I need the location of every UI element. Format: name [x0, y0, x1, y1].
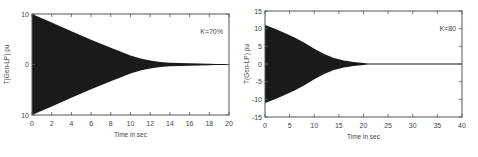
y-tick-label: -15 [252, 114, 262, 121]
x-tick-label: 6 [89, 120, 93, 127]
x-tick-label: 35 [433, 122, 441, 129]
x-tick-label: 18 [205, 120, 213, 127]
x-tick-label: 40 [458, 122, 466, 129]
x-axis-label: Time in sec [114, 131, 148, 138]
y-axis-label: T(Gen-LP) pu [243, 44, 251, 84]
chart-left-plot: 0246810121416182010010Time in secT(Gen-L… [0, 0, 240, 157]
x-tick-label: 0 [30, 120, 34, 127]
chart-right-k80: 0510152025303540-15-10-5051015Time in se… [240, 0, 478, 157]
x-tick-label: 14 [166, 120, 174, 127]
x-tick-label: 0 [263, 122, 267, 129]
legend-label: K=70% [200, 28, 223, 35]
x-tick-label: 10 [310, 122, 318, 129]
x-tick-label: 30 [409, 122, 417, 129]
x-tick-label: 16 [186, 120, 194, 127]
y-tick-label: 0 [25, 61, 29, 68]
x-tick-label: 5 [288, 122, 292, 129]
x-tick-label: 20 [225, 120, 233, 127]
x-axis-label: Time in sec [347, 133, 381, 140]
x-tick-label: 10 [127, 120, 135, 127]
chart-right-plot: 0510152025303540-15-10-5051015Time in se… [240, 0, 478, 157]
x-tick-label: 20 [360, 122, 368, 129]
y-tick-label: -10 [252, 96, 262, 103]
x-tick-label: 12 [146, 120, 154, 127]
y-tick-label: 15 [254, 8, 262, 15]
chart-left-k70: 0246810121416182010010Time in secT(Gen-L… [0, 0, 240, 157]
x-tick-label: 4 [69, 120, 73, 127]
legend-label: K=80 [439, 25, 456, 32]
y-tick-label: 10 [21, 112, 29, 119]
y-tick-label: 10 [254, 25, 262, 32]
y-tick-label: 5 [258, 43, 262, 50]
y-tick-label: -5 [256, 78, 262, 85]
y-axis-label: T(Gen-LP) pu [3, 44, 11, 84]
x-tick-label: 15 [335, 122, 343, 129]
x-tick-label: 2 [50, 120, 54, 127]
y-tick-label: 10 [21, 11, 29, 18]
x-tick-label: 25 [384, 122, 392, 129]
y-tick-label: 0 [258, 61, 262, 68]
x-tick-label: 8 [109, 120, 113, 127]
